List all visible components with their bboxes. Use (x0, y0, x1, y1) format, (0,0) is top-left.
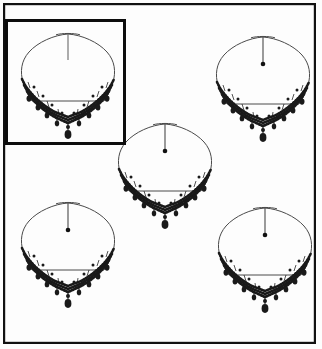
artboard (0, 0, 322, 349)
page-background (0, 0, 322, 349)
necklace-catalog-canvas (0, 0, 322, 349)
